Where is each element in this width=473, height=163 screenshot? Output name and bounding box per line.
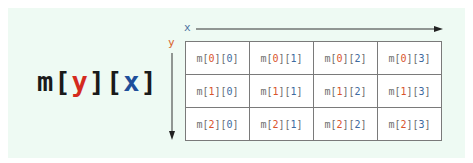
cell-mid: ][	[406, 86, 418, 97]
grid-cell: m[2][0]	[186, 108, 250, 141]
cell-mid: ][	[342, 119, 354, 130]
cell-mid: ][	[214, 53, 226, 64]
cell-pre: m[	[196, 53, 208, 64]
cell-post: ]	[361, 53, 367, 64]
cell-pre: m[	[324, 86, 336, 97]
formula-suffix: ]	[141, 66, 158, 97]
cell-post: ]	[361, 86, 367, 97]
formula-mid: ][	[89, 66, 124, 97]
grid-cell: m[2][2]	[314, 108, 378, 141]
cell-post: ]	[425, 119, 431, 130]
grid-row: m[2][0]m[2][1]m[2][2]m[2][3]	[186, 108, 442, 141]
cell-pre: m[	[196, 86, 208, 97]
grid-cell: m[2][1]	[250, 108, 314, 141]
grid-row: m[0][0]m[0][1]m[0][2]m[0][3]	[186, 42, 442, 75]
cell-mid: ][	[278, 53, 290, 64]
cell-pre: m[	[388, 119, 400, 130]
cell-pre: m[	[260, 119, 272, 130]
cell-post: ]	[297, 53, 303, 64]
cell-mid: ][	[278, 86, 290, 97]
grid-row: m[1][0]m[1][1]m[1][2]m[1][3]	[186, 75, 442, 108]
cell-mid: ][	[406, 119, 418, 130]
cell-mid: ][	[342, 86, 354, 97]
grid-cell: m[0][1]	[250, 42, 314, 75]
cell-post: ]	[297, 119, 303, 130]
cell-post: ]	[297, 86, 303, 97]
matrix-index-formula: m[y][x]	[37, 66, 158, 97]
cell-post: ]	[233, 119, 239, 130]
cell-pre: m[	[388, 53, 400, 64]
cell-post: ]	[425, 86, 431, 97]
x-axis-label: x	[184, 21, 191, 34]
cell-post: ]	[233, 86, 239, 97]
cell-pre: m[	[260, 53, 272, 64]
cell-pre: m[	[324, 53, 336, 64]
formula-col-var: x	[123, 66, 140, 97]
grid-cell: m[0][3]	[378, 42, 442, 75]
grid-cell: m[0][2]	[314, 42, 378, 75]
matrix-grid: m[0][0]m[0][1]m[0][2]m[0][3]m[1][0]m[1][…	[185, 41, 442, 141]
cell-pre: m[	[260, 86, 272, 97]
cell-mid: ][	[342, 53, 354, 64]
cell-post: ]	[233, 53, 239, 64]
cell-mid: ][	[214, 86, 226, 97]
formula-prefix: m[	[37, 66, 72, 97]
cell-mid: ][	[406, 53, 418, 64]
grid-cell: m[1][3]	[378, 75, 442, 108]
grid-cell: m[1][0]	[186, 75, 250, 108]
cell-mid: ][	[214, 119, 226, 130]
cell-pre: m[	[196, 119, 208, 130]
cell-post: ]	[425, 53, 431, 64]
cell-mid: ][	[278, 119, 290, 130]
grid-cell: m[2][3]	[378, 108, 442, 141]
grid-cell: m[0][0]	[186, 42, 250, 75]
grid-cell: m[1][1]	[250, 75, 314, 108]
formula-row-var: y	[72, 66, 89, 97]
grid-cell: m[1][2]	[314, 75, 378, 108]
y-axis-label: y	[168, 36, 175, 49]
cell-pre: m[	[388, 86, 400, 97]
cell-post: ]	[361, 119, 367, 130]
cell-pre: m[	[324, 119, 336, 130]
